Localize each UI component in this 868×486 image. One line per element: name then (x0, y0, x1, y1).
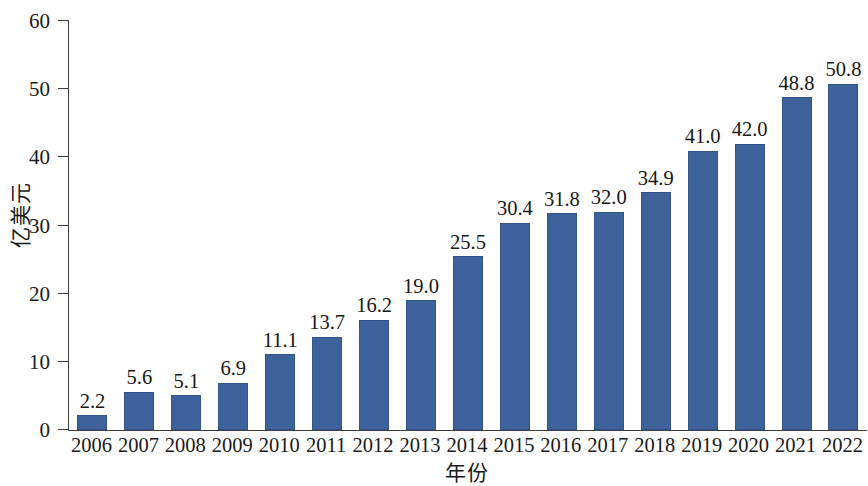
bar-group: 11.1 (257, 21, 304, 430)
bar-value-label: 16.2 (356, 295, 392, 316)
y-axis-tick: 0 (58, 429, 69, 430)
x-axis-tick-label: 2006 (68, 434, 115, 457)
bar-group: 50.8 (820, 21, 867, 430)
bar-group: 6.9 (210, 21, 257, 430)
bar-group: 5.1 (163, 21, 210, 430)
bar-value-label: 13.7 (309, 312, 345, 333)
bar-value-label: 48.8 (779, 73, 815, 94)
y-axis-tick-label: 0 (40, 420, 59, 441)
y-axis-tick-label: 10 (29, 351, 58, 372)
bar (77, 415, 107, 430)
bar (265, 354, 295, 430)
y-axis-tick: 10 (58, 361, 69, 362)
x-axis-tick-label: 2010 (256, 434, 303, 457)
y-axis-tick-label: 50 (29, 79, 58, 100)
bar (828, 84, 858, 430)
bar-value-label: 5.6 (127, 367, 153, 388)
plot-area: 0102030405060 2.25.65.16.911.113.716.219… (68, 21, 867, 431)
bar-group: 25.5 (445, 21, 492, 430)
bar-value-label: 31.8 (544, 189, 580, 210)
bar-series: 2.25.65.16.911.113.716.219.025.530.431.8… (69, 21, 867, 430)
bar (171, 395, 201, 430)
y-axis-tick-label: 40 (29, 147, 58, 168)
x-axis-tick-label: 2016 (537, 434, 584, 457)
bar-value-label: 32.0 (591, 187, 627, 208)
x-axis-tick-label: 2019 (678, 434, 725, 457)
bar (782, 97, 812, 430)
y-axis-tick: 20 (58, 293, 69, 294)
x-axis-tick-label: 2013 (397, 434, 444, 457)
x-axis-tick-label: 2008 (162, 434, 209, 457)
bar (547, 213, 577, 430)
bar (406, 300, 436, 430)
bar-value-label: 50.8 (826, 59, 862, 80)
bar-value-label: 41.0 (685, 126, 721, 147)
x-axis-tick-labels: 2006200720082009201020112012201320142015… (68, 434, 866, 457)
bar-value-label: 34.9 (638, 168, 674, 189)
y-axis-tick: 40 (58, 156, 69, 157)
bar (312, 337, 342, 430)
bar-group: 32.0 (585, 21, 632, 430)
x-axis-title: 年份 (68, 456, 866, 486)
bar (218, 383, 248, 430)
x-axis-title-text: 年份 (445, 461, 489, 485)
bar (641, 192, 671, 430)
bar-group: 31.8 (538, 21, 585, 430)
y-axis-tick-label: 60 (29, 11, 58, 32)
y-axis-tick: 50 (58, 88, 69, 89)
bar (359, 320, 389, 430)
x-axis-tick-label: 2011 (303, 434, 350, 457)
bar-group: 19.0 (398, 21, 445, 430)
bar-group: 30.4 (491, 21, 538, 430)
bar-group: 16.2 (351, 21, 398, 430)
bar-value-label: 6.9 (220, 358, 246, 379)
bar (594, 212, 624, 430)
bar-value-label: 2.2 (80, 391, 106, 412)
bar (124, 392, 154, 430)
y-axis-tick-label: 20 (29, 283, 58, 304)
x-axis-tick-label: 2009 (209, 434, 256, 457)
bar-group: 41.0 (679, 21, 726, 430)
x-axis-tick-label: 2014 (444, 434, 491, 457)
x-axis-tick-label: 2018 (631, 434, 678, 457)
bar-group: 5.6 (116, 21, 163, 430)
bar-group: 13.7 (304, 21, 351, 430)
x-axis-tick-label: 2015 (490, 434, 537, 457)
bar-group: 42.0 (726, 21, 773, 430)
bar-group: 48.8 (773, 21, 820, 430)
bar-group: 2.2 (69, 21, 116, 430)
x-axis-tick-label: 2020 (725, 434, 772, 457)
bar (453, 256, 483, 430)
bar (688, 151, 718, 430)
x-axis-tick-label: 2012 (350, 434, 397, 457)
y-axis-tick: 60 (58, 20, 69, 21)
x-axis-tick-label: 2007 (115, 434, 162, 457)
y-axis-tick-label: 30 (29, 215, 58, 236)
bar-value-label: 30.4 (497, 198, 533, 219)
bar-value-label: 5.1 (174, 371, 200, 392)
x-axis-tick-label: 2022 (819, 434, 866, 457)
bar-value-label: 42.0 (732, 119, 768, 140)
x-axis-tick-label: 2017 (584, 434, 631, 457)
bar (500, 223, 530, 430)
x-axis-tick-label: 2021 (772, 434, 819, 457)
bar-value-label: 11.1 (263, 330, 298, 351)
bar-group: 34.9 (632, 21, 679, 430)
bar-value-label: 19.0 (403, 276, 439, 297)
bar-value-label: 25.5 (450, 232, 486, 253)
bar (735, 144, 765, 430)
y-axis-tick: 30 (58, 225, 69, 226)
